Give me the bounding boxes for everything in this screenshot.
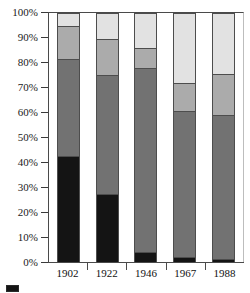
legend-swatch [6, 285, 19, 292]
y-axis-tick-label: 70% [18, 81, 41, 92]
x-axis-tick-label: 1967 [174, 268, 196, 279]
y-axis-tick-mark [41, 37, 48, 38]
x-axis-tick-label: 1922 [96, 268, 118, 279]
bar-segment[interactable] [174, 83, 195, 111]
x-axis-tick-label: 1946 [135, 268, 157, 279]
y-axis-tick-mark [41, 162, 48, 163]
bar-segment[interactable] [174, 111, 195, 258]
y-axis-tick-mark [41, 237, 48, 238]
y-axis-tick-mark [41, 137, 48, 138]
stacked-bar-chart: 0%10%20%30%40%50%60%70%80%90%100% 190219… [0, 0, 250, 293]
y-axis-tick-label: 10% [18, 231, 41, 242]
bar-segment[interactable] [213, 115, 234, 258]
y-axis-tick-label: 30% [18, 181, 41, 192]
y-axis-tick-label: 100% [12, 6, 41, 17]
y-axis-tick-label: 20% [18, 206, 41, 217]
bar-segment[interactable] [213, 14, 234, 74]
bar-segment[interactable] [58, 59, 79, 156]
y-axis-tick-mark [41, 87, 48, 88]
stacked-bar[interactable] [173, 13, 196, 262]
bar-segment[interactable] [97, 194, 118, 262]
x-axis-tick: 1902 [48, 263, 87, 287]
bar-segment[interactable] [97, 75, 118, 194]
stacked-bar[interactable] [134, 13, 157, 262]
bar-slot [204, 13, 243, 262]
bar-group [49, 13, 243, 262]
x-axis-tick: 1967 [166, 263, 205, 287]
x-axis-tick: 1946 [126, 263, 165, 287]
bar-segment[interactable] [97, 14, 118, 39]
bar-segment[interactable] [174, 14, 195, 83]
bar-segment[interactable] [135, 48, 156, 67]
bar-segment[interactable] [135, 68, 156, 253]
stacked-bar[interactable] [96, 13, 119, 262]
plot-area [48, 12, 244, 262]
stacked-bar[interactable] [212, 13, 235, 262]
x-axis-tick: 1988 [205, 263, 244, 287]
bar-segment[interactable] [58, 156, 79, 262]
y-axis-tick-label: 40% [18, 156, 41, 167]
bar-slot [127, 13, 166, 262]
bar-slot [49, 13, 88, 262]
bar-segment[interactable] [58, 26, 79, 59]
stacked-bar[interactable] [57, 13, 80, 262]
bar-segment[interactable] [97, 39, 118, 76]
y-axis-tick-mark [41, 112, 48, 113]
y-axis-tick-label: 60% [18, 106, 41, 117]
y-axis-tick-mark [41, 212, 48, 213]
x-axis-tick-label: 1988 [213, 268, 235, 279]
y-axis-tick-mark [41, 12, 48, 13]
y-axis-tick-mark [41, 187, 48, 188]
x-axis-tick: 1922 [87, 263, 126, 287]
y-axis-tick-mark [41, 262, 48, 263]
bar-segment[interactable] [135, 252, 156, 262]
x-axis-tick-label: 1902 [57, 268, 79, 279]
y-axis-tick-label: 0% [23, 256, 41, 267]
y-axis-tick-mark [41, 62, 48, 63]
bar-slot [88, 13, 127, 262]
y-axis-tick-label: 90% [18, 31, 41, 42]
y-axis-tick-label: 50% [18, 131, 41, 142]
bar-segment[interactable] [213, 74, 234, 115]
y-axis-tick-label: 80% [18, 56, 41, 67]
bar-segment[interactable] [135, 14, 156, 48]
x-axis: 19021922194619671988 [48, 262, 244, 287]
y-axis: 0%10%20%30%40%50%60%70%80%90%100% [0, 0, 48, 293]
bar-segment[interactable] [58, 14, 79, 26]
bar-slot [165, 13, 204, 262]
chart-legend [6, 285, 19, 292]
